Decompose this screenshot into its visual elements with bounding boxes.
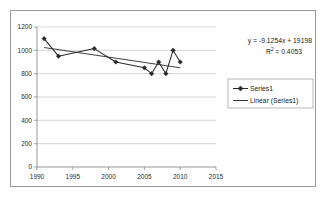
legend-label-linear-series1: Linear (Series1) bbox=[250, 97, 298, 105]
series-group bbox=[42, 36, 183, 76]
r-squared-text: R2 = 0.4053 bbox=[266, 47, 302, 55]
equation-text: y = -9.1254x + 19198 bbox=[248, 37, 312, 45]
series-data-point-marker bbox=[171, 48, 176, 53]
y-axis-tick-labels: 1200 1000 800 600 400 200 0 bbox=[18, 23, 33, 170]
series-data-point-marker bbox=[164, 71, 169, 76]
chart-plot: 1200 1000 800 600 400 200 0 1990 1995 20… bbox=[0, 0, 329, 203]
series-data-point-marker bbox=[156, 60, 161, 65]
x-tick-label: 1995 bbox=[66, 173, 81, 180]
x-tick-label: 2015 bbox=[209, 173, 224, 180]
series-data-point-marker bbox=[178, 60, 183, 65]
y-tick-label: 1000 bbox=[18, 47, 33, 54]
y-tick-label: 600 bbox=[21, 93, 32, 100]
y-tick-label: 400 bbox=[21, 117, 32, 124]
chart-legend: Series1 Linear (Series1) bbox=[228, 79, 313, 108]
x-tick-label: 2000 bbox=[101, 173, 116, 180]
y-tick-label: 1200 bbox=[18, 23, 33, 30]
gridlines bbox=[37, 27, 216, 144]
series-line-series1 bbox=[44, 39, 180, 74]
legend-label-series1: Series1 bbox=[250, 85, 273, 92]
y-tick-label: 200 bbox=[21, 140, 32, 147]
trendline-equation-annotation: y = -9.1254x + 19198 R2 = 0.4053 bbox=[248, 37, 312, 55]
x-axis-ticks bbox=[37, 167, 216, 170]
y-tick-label: 0 bbox=[28, 163, 32, 170]
x-tick-label: 2005 bbox=[137, 173, 152, 180]
x-tick-label: 1990 bbox=[30, 173, 45, 180]
x-axis-tick-labels: 1990 1995 2000 2005 2010 2015 bbox=[30, 173, 224, 180]
x-tick-label: 2010 bbox=[173, 173, 188, 180]
series-markers bbox=[42, 36, 183, 76]
y-axis-ticks bbox=[34, 27, 37, 167]
y-tick-label: 800 bbox=[21, 70, 32, 77]
r-squared-value: = 0.4053 bbox=[273, 48, 302, 55]
